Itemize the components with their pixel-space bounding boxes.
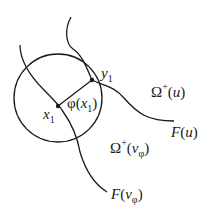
omega-symbol: Ω: [151, 84, 162, 100]
omega-symbol: Ω: [110, 140, 121, 156]
F-arg: v: [125, 186, 132, 202]
paren-close: ): [180, 84, 185, 100]
point-y1: [90, 78, 94, 82]
F-symbol: F: [171, 124, 180, 140]
curve-F-v-phi: [20, 45, 107, 192]
diagram-canvas: [0, 0, 208, 216]
paren-close: ): [92, 95, 97, 111]
label-phi-x1: φ(x1): [67, 96, 97, 114]
label-F-v-phi: F(vφ): [111, 187, 143, 205]
phi-symbol: φ: [67, 95, 76, 111]
label-x1-main: x: [43, 106, 50, 122]
label-y1-sub: 1: [108, 73, 113, 84]
diagram-figure: y1 x1 φ(x1) Ω+(u) F(u) Ω+(vφ) F(vφ): [0, 0, 208, 216]
F-symbol: F: [111, 186, 120, 202]
F-arg: u: [185, 124, 193, 140]
label-x1: x1: [43, 107, 55, 125]
label-F-u: F(u): [171, 125, 198, 140]
label-omega-plus-v-phi: Ω+(vφ): [110, 138, 149, 159]
paren-close: ): [193, 124, 198, 140]
paren-close: ): [138, 186, 143, 202]
label-y1-main: y: [101, 65, 108, 81]
point-x1: [56, 104, 60, 108]
label-x1-sub: 1: [50, 114, 55, 125]
paren-close: ): [144, 140, 149, 156]
label-omega-plus-u: Ω+(u): [151, 82, 185, 100]
label-y1: y1: [101, 66, 113, 84]
